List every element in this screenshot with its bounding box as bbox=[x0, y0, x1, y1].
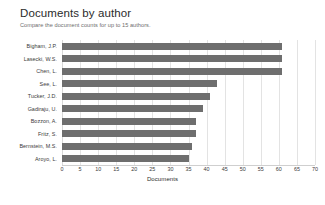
y-axis-label: Lasecki, W.S. bbox=[24, 56, 57, 62]
x-axis-tick-label: 65 bbox=[294, 166, 300, 172]
x-axis-tick-label: 30 bbox=[167, 166, 173, 172]
x-axis-tick-label: 70 bbox=[312, 166, 318, 172]
bar[interactable] bbox=[62, 105, 203, 112]
y-axis-label: Tucker, J.D. bbox=[28, 93, 57, 99]
bar[interactable] bbox=[62, 155, 189, 162]
bar[interactable] bbox=[62, 143, 192, 150]
y-axis-label: Bozzon, A. bbox=[31, 118, 57, 124]
y-axis-label: Aroyo, L. bbox=[35, 156, 57, 162]
x-axis-tick-label: 60 bbox=[276, 166, 282, 172]
bar[interactable] bbox=[62, 55, 282, 62]
y-axis-label: Bigham, J.P. bbox=[27, 43, 57, 49]
bar[interactable] bbox=[62, 80, 217, 87]
x-axis-tick-label: 20 bbox=[131, 166, 137, 172]
y-axis-label: Fritz, S. bbox=[38, 131, 57, 137]
x-axis-tick-label: 45 bbox=[222, 166, 228, 172]
x-axis-tick-label: 25 bbox=[149, 166, 155, 172]
bar[interactable] bbox=[62, 43, 282, 50]
x-axis-tick-label: 15 bbox=[113, 166, 119, 172]
x-axis-tick-label: 5 bbox=[79, 166, 82, 172]
page-subtitle: Compare the document counts for up to 15… bbox=[20, 22, 151, 28]
page-title: Documents by author bbox=[20, 7, 131, 19]
y-axis-label: Bernstein, M.S. bbox=[19, 143, 57, 149]
x-axis-ticks: 0510152025303540455055606570 bbox=[0, 166, 325, 176]
bar[interactable] bbox=[62, 118, 196, 125]
bar[interactable] bbox=[62, 68, 282, 75]
chart-panel: Documents by author Compare the document… bbox=[0, 0, 325, 205]
x-axis-tick-label: 35 bbox=[186, 166, 192, 172]
x-axis-tick-label: 0 bbox=[61, 166, 64, 172]
bar-series bbox=[62, 40, 315, 165]
x-axis-tick-label: 55 bbox=[258, 166, 264, 172]
y-axis-labels: Bigham, J.P.Lasecki, W.S.Chen, L.See, L.… bbox=[0, 40, 60, 165]
x-axis-tick-label: 50 bbox=[240, 166, 246, 172]
plot-area bbox=[62, 40, 315, 165]
grid-line bbox=[315, 40, 316, 165]
bar[interactable] bbox=[62, 130, 196, 137]
x-axis-tick-label: 10 bbox=[95, 166, 101, 172]
x-axis-title: Documents bbox=[0, 176, 325, 182]
x-axis-tick-label: 40 bbox=[204, 166, 210, 172]
y-axis-label: See, L. bbox=[40, 81, 57, 87]
bar[interactable] bbox=[62, 93, 210, 100]
y-axis-label: Gadiraju, U. bbox=[28, 106, 57, 112]
y-axis-label: Chen, L. bbox=[36, 68, 57, 74]
